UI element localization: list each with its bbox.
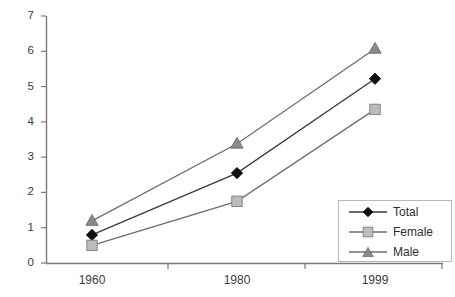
- chart-legend: Total Female Male: [338, 200, 452, 262]
- x-axis-label-1980: 1980: [207, 274, 267, 286]
- y-axis-label-3: 3: [14, 151, 34, 163]
- x-axis-label-1999: 1999: [345, 274, 405, 286]
- legend-marker-triangle-icon: [347, 244, 389, 260]
- y-axis-label-5: 5: [14, 81, 34, 93]
- line-chart: 0 1 2 3 4 5 6 7 1960 1980 1999 Total: [0, 0, 455, 297]
- legend-label-total: Total: [393, 206, 418, 218]
- legend-label-female: Female: [393, 226, 433, 238]
- y-axis-label-0: 0: [14, 257, 34, 269]
- series-line-total: [92, 79, 375, 235]
- legend-label-male: Male: [393, 246, 419, 258]
- x-axis-label-1960: 1960: [62, 274, 122, 286]
- legend-item-male[interactable]: Male: [339, 242, 451, 262]
- legend-marker-square-icon: [347, 224, 389, 240]
- series-line-male: [92, 49, 375, 221]
- legend-marker-diamond-icon: [347, 204, 389, 220]
- y-axis-label-6: 6: [14, 45, 34, 57]
- y-axis-ticks: [41, 16, 46, 263]
- y-axis-label-7: 7: [14, 10, 34, 22]
- y-axis-label-1: 1: [14, 222, 34, 234]
- series-line-female: [92, 109, 375, 245]
- y-axis-label-4: 4: [14, 116, 34, 128]
- series-markers-female: [87, 104, 380, 250]
- cropped-caption-fragment: [2, 288, 262, 297]
- y-axis-label-2: 2: [14, 186, 34, 198]
- series-markers-total: [86, 73, 380, 241]
- legend-item-female[interactable]: Female: [339, 222, 451, 242]
- legend-item-total[interactable]: Total: [339, 202, 451, 222]
